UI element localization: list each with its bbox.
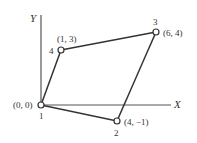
edge-4-1 (41, 50, 61, 105)
node-number-label: 3 (153, 17, 158, 27)
node-coord-label: (4, −1) (124, 117, 149, 127)
edge-2-3 (117, 32, 156, 121)
node-number-label: 1 (39, 111, 44, 121)
node-2: (4, −1) 2 (114, 117, 149, 138)
node-3: (6, 4) 3 (153, 17, 183, 38)
node-coord-label: (0, 0) (13, 100, 33, 110)
node-circle (153, 29, 159, 35)
node-number-label: 4 (49, 46, 54, 56)
x-axis-label: X (173, 98, 182, 110)
node-4: (1, 3) 4 (49, 34, 77, 56)
edge-1-2 (41, 105, 117, 121)
node-coord-label: (1, 3) (57, 34, 77, 44)
node-coord-label: (6, 4) (163, 28, 183, 38)
y-axis-label: Y (30, 12, 38, 24)
node-circle (114, 118, 120, 124)
quadrilateral-diagram: Y X (0, 0) 1 (4, −1) 2 (6, 4) 3 (1, 3) 4 (0, 0, 197, 143)
node-circle (38, 102, 44, 108)
element-edges (41, 32, 156, 121)
node-1: (0, 0) 1 (13, 100, 44, 121)
node-circle (58, 47, 64, 53)
node-number-label: 2 (114, 128, 119, 138)
